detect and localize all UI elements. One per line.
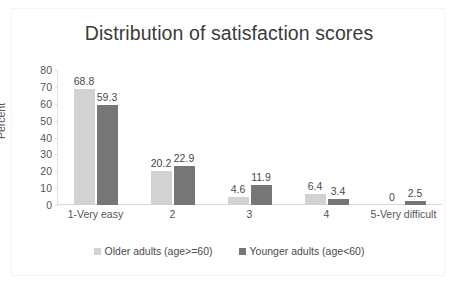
legend-swatch-icon — [94, 248, 101, 255]
legend-label: Older adults (age>=60) — [105, 245, 213, 257]
y-axis-tick-label: 40 — [33, 133, 52, 143]
bar[interactable] — [97, 105, 118, 205]
y-axis-tick-labels: 01020304050607080 — [33, 70, 52, 205]
bar-value-label: 59.3 — [90, 92, 125, 103]
x-axis-tick-labels: 1-Very easy2345-Very difficult — [57, 208, 442, 226]
bar-group: 6.43.4 — [288, 70, 365, 205]
x-axis-tick-label: 2 — [134, 208, 211, 220]
y-axis-title: Percent — [0, 103, 7, 139]
bar[interactable] — [328, 199, 349, 205]
legend-item[interactable]: Older adults (age>=60) — [94, 245, 213, 257]
legend-label: Younger adults (age<60) — [250, 245, 365, 257]
bar-value-label: 3.4 — [321, 186, 356, 197]
bar[interactable] — [405, 201, 426, 205]
x-axis-tick-label: 1-Very easy — [57, 208, 134, 220]
y-axis-tick-label: 60 — [33, 99, 52, 109]
plot-area: 68.859.320.222.94.611.96.43.402.5 — [57, 70, 442, 205]
x-axis-tick-label: 4 — [288, 208, 365, 220]
chart-legend: Older adults (age>=60)Younger adults (ag… — [0, 245, 458, 257]
y-axis-tick-label: 20 — [33, 166, 52, 176]
bar[interactable] — [228, 197, 249, 205]
bar[interactable] — [74, 89, 95, 205]
x-axis-tick-label: 5-Very difficult — [365, 208, 442, 220]
y-axis-tick-label: 70 — [33, 82, 52, 92]
bar-group: 20.222.9 — [134, 70, 211, 205]
legend-item[interactable]: Younger adults (age<60) — [239, 245, 365, 257]
bar-value-label: 11.9 — [244, 172, 279, 183]
y-axis-tick-label: 0 — [33, 200, 52, 210]
bar[interactable] — [174, 166, 195, 205]
y-axis-tick-label: 80 — [33, 65, 52, 75]
legend-swatch-icon — [239, 248, 246, 255]
y-axis-tick-label: 50 — [33, 116, 52, 126]
bar[interactable] — [151, 171, 172, 205]
bar-group: 4.611.9 — [211, 70, 288, 205]
y-axis-tick-label: 10 — [33, 183, 52, 193]
chart-title: Distribution of satisfaction scores — [0, 22, 458, 45]
bar-group: 68.859.3 — [57, 70, 134, 205]
bar-value-label: 2.5 — [398, 188, 433, 199]
y-axis-tick — [55, 205, 58, 206]
bar-value-label: 68.8 — [67, 76, 102, 87]
bar-group: 02.5 — [365, 70, 442, 205]
bar-value-label: 22.9 — [167, 153, 202, 164]
x-axis-tick-label: 3 — [211, 208, 288, 220]
chart-container: Distribution of satisfaction scores Perc… — [0, 0, 458, 286]
bar[interactable] — [251, 185, 272, 205]
y-axis-tick-label: 30 — [33, 149, 52, 159]
